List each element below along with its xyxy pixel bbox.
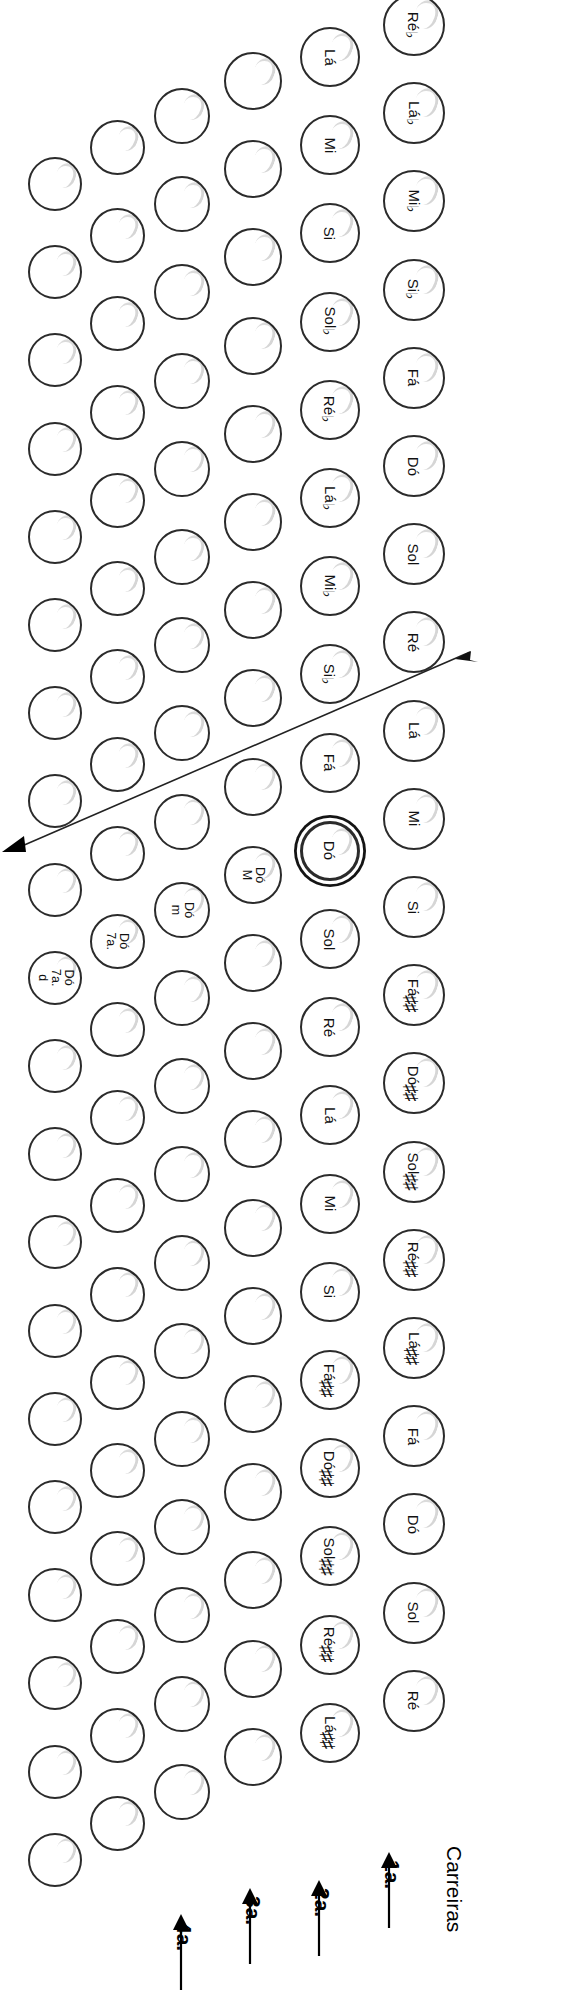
accordion-button[interactable] xyxy=(224,1375,282,1433)
accordion-button[interactable] xyxy=(154,794,210,850)
accordion-button[interactable] xyxy=(224,1199,282,1257)
accordion-button[interactable] xyxy=(154,1587,210,1643)
accordion-button[interactable] xyxy=(154,1058,210,1114)
accordion-button[interactable] xyxy=(224,405,282,463)
accordion-button[interactable] xyxy=(224,1022,282,1080)
button-selected[interactable]: Dó xyxy=(300,821,360,881)
accordion-button[interactable] xyxy=(154,1411,210,1467)
accordion-button[interactable] xyxy=(224,140,282,198)
accordion-button[interactable] xyxy=(90,296,145,351)
accordion-button[interactable] xyxy=(224,1640,282,1698)
accordion-button[interactable]: DóM xyxy=(224,846,282,904)
accordion-button[interactable]: Si♭ xyxy=(300,644,360,704)
accordion-button[interactable] xyxy=(28,157,82,211)
accordion-button[interactable] xyxy=(28,1568,82,1622)
accordion-button[interactable] xyxy=(28,510,82,564)
accordion-button[interactable]: Fá♯♯ xyxy=(300,1350,360,1410)
accordion-button[interactable] xyxy=(90,826,145,881)
accordion-button[interactable] xyxy=(154,441,210,497)
accordion-button[interactable]: Ré xyxy=(383,611,445,673)
accordion-button[interactable]: Lá xyxy=(300,27,360,87)
accordion-button[interactable] xyxy=(154,529,210,585)
accordion-button[interactable] xyxy=(224,669,282,727)
accordion-button[interactable]: Fá xyxy=(383,347,445,409)
accordion-button[interactable] xyxy=(154,1676,210,1732)
accordion-button[interactable] xyxy=(224,493,282,551)
accordion-button[interactable] xyxy=(224,581,282,639)
accordion-button[interactable]: Dó7a. xyxy=(90,914,145,969)
accordion-button[interactable] xyxy=(224,758,282,816)
accordion-button[interactable] xyxy=(28,333,82,387)
accordion-button[interactable] xyxy=(28,422,82,476)
accordion-button[interactable]: Si xyxy=(300,203,360,263)
accordion-button[interactable] xyxy=(90,1531,145,1586)
accordion-button[interactable] xyxy=(90,473,145,528)
accordion-button[interactable]: Dó xyxy=(383,435,445,497)
accordion-button[interactable]: Lá♭ xyxy=(300,468,360,528)
accordion-button[interactable]: Ré xyxy=(383,1670,445,1732)
accordion-button[interactable] xyxy=(90,1090,145,1145)
accordion-button[interactable] xyxy=(224,52,282,110)
accordion-button[interactable]: Lá xyxy=(300,1085,360,1145)
accordion-button[interactable]: Mi xyxy=(300,115,360,175)
accordion-button[interactable]: Mi♭ xyxy=(300,556,360,616)
accordion-button[interactable] xyxy=(154,1499,210,1555)
accordion-button[interactable] xyxy=(28,1215,82,1269)
accordion-button[interactable] xyxy=(90,737,145,792)
accordion-button[interactable]: Si xyxy=(383,876,445,938)
accordion-button[interactable] xyxy=(90,1796,145,1851)
accordion-button[interactable] xyxy=(90,1267,145,1322)
accordion-button[interactable]: Si xyxy=(300,1262,360,1322)
accordion-button[interactable] xyxy=(154,1146,210,1202)
accordion-button[interactable]: Ré♯♯ xyxy=(383,1229,445,1291)
accordion-button[interactable] xyxy=(224,1551,282,1609)
accordion-button[interactable] xyxy=(28,245,82,299)
accordion-button[interactable] xyxy=(154,705,210,761)
accordion-button[interactable]: Fá xyxy=(383,1405,445,1467)
accordion-button[interactable]: Sol♭ xyxy=(300,292,360,352)
accordion-button[interactable] xyxy=(90,1708,145,1763)
accordion-button[interactable] xyxy=(28,598,82,652)
accordion-button[interactable]: Sol xyxy=(383,1582,445,1644)
accordion-button[interactable] xyxy=(154,1323,210,1379)
accordion-button[interactable] xyxy=(154,1764,210,1820)
accordion-button[interactable] xyxy=(28,774,82,828)
accordion-button[interactable]: Fá xyxy=(300,733,360,793)
accordion-button[interactable]: Sol xyxy=(300,909,360,969)
accordion-button[interactable]: Sol♯♯ xyxy=(383,1141,445,1203)
accordion-button[interactable]: Mi xyxy=(300,1174,360,1234)
accordion-button[interactable] xyxy=(224,934,282,992)
accordion-button[interactable]: Lá♭ xyxy=(383,82,445,144)
accordion-button[interactable]: Dó♯♯ xyxy=(383,1052,445,1114)
accordion-button[interactable] xyxy=(90,1443,145,1498)
accordion-button[interactable] xyxy=(28,1127,82,1181)
accordion-button[interactable] xyxy=(90,1002,145,1057)
accordion-button[interactable]: Sol♯♯ xyxy=(300,1526,360,1586)
accordion-button[interactable] xyxy=(28,863,82,917)
accordion-button[interactable] xyxy=(90,385,145,440)
accordion-button[interactable] xyxy=(28,1304,82,1358)
accordion-button[interactable]: Mi xyxy=(383,788,445,850)
accordion-button[interactable] xyxy=(28,1745,82,1799)
accordion-button[interactable] xyxy=(90,561,145,616)
accordion-button[interactable] xyxy=(154,264,210,320)
accordion-button[interactable] xyxy=(154,176,210,232)
accordion-button[interactable] xyxy=(224,228,282,286)
accordion-button[interactable]: Lá♯♯ xyxy=(300,1703,360,1763)
accordion-button[interactable]: Sol xyxy=(383,523,445,585)
accordion-button[interactable] xyxy=(90,649,145,704)
accordion-button[interactable]: Dó7a.d xyxy=(28,951,82,1005)
accordion-button[interactable] xyxy=(224,317,282,375)
accordion-button[interactable] xyxy=(224,1110,282,1168)
accordion-button[interactable] xyxy=(224,1463,282,1521)
accordion-button[interactable] xyxy=(28,1039,82,1093)
accordion-button[interactable]: Ré♭ xyxy=(383,0,445,56)
accordion-button[interactable]: Lá xyxy=(383,700,445,762)
accordion-button[interactable]: Fá♯♯ xyxy=(383,964,445,1026)
accordion-button[interactable] xyxy=(90,208,145,263)
accordion-button[interactable] xyxy=(224,1287,282,1345)
accordion-button[interactable] xyxy=(28,1392,82,1446)
accordion-button[interactable] xyxy=(154,88,210,144)
accordion-button[interactable]: Ré xyxy=(300,997,360,1057)
accordion-button[interactable] xyxy=(90,1178,145,1233)
